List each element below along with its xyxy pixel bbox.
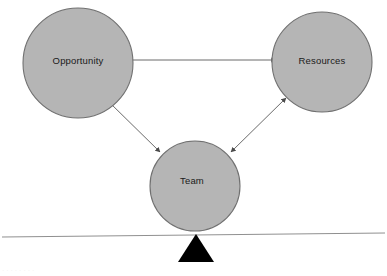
node-opportunity-label: Opportunity (53, 55, 104, 66)
node-opportunity[interactable]: Opportunity (23, 8, 133, 118)
diagram-canvas: Opportunity Resources Team · · · · · · ·… (0, 0, 387, 276)
node-resources[interactable]: Resources (272, 12, 372, 112)
node-team-label: Team (180, 175, 204, 186)
balance-beam (2, 233, 385, 237)
figure-caption: · · · · · · · · (2, 266, 162, 275)
connector-resources-team (231, 98, 286, 152)
fulcrum-triangle (178, 234, 214, 262)
node-team-circle (150, 141, 240, 231)
node-resources-label: Resources (299, 55, 346, 66)
connector-opportunity-team (108, 101, 160, 152)
node-team[interactable]: Team (150, 141, 240, 231)
balance-triangle-diagram: Opportunity Resources Team (0, 0, 387, 276)
